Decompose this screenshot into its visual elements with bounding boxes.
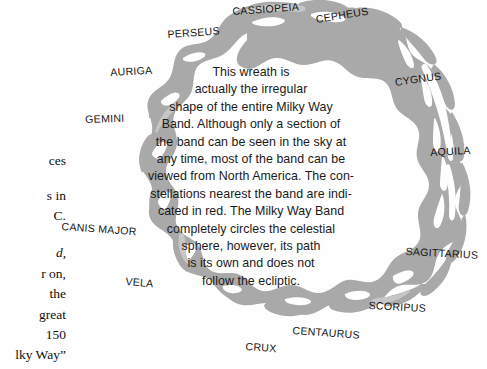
caption-line: sphere, however, its path xyxy=(140,238,362,255)
caption-line: completely circles the celestial xyxy=(140,221,362,238)
caption-line: actually the irregular xyxy=(140,81,362,98)
constellation-label-gemini: GEMINI xyxy=(85,112,125,125)
caption-line: cated in red. The Milky Way Band xyxy=(140,203,362,220)
caption-line: shape of the entire Milky Way xyxy=(140,99,362,116)
figure-page: cess inC.d,r on,thegreat150lky Way”middl… xyxy=(0,0,487,369)
constellation-label-crux: CRUX xyxy=(245,340,277,354)
caption-line: viewed from North America. The con- xyxy=(140,168,362,185)
constellation-label-vela: VELA xyxy=(125,275,154,289)
caption-line: any time, most of the band can be xyxy=(140,151,362,168)
body-text-line: middle ono xyxy=(5,364,66,369)
caption-line: This wreath is xyxy=(140,64,362,81)
caption-line: follow the ecliptic. xyxy=(140,273,362,290)
constellation-label-auriga: AURIGA xyxy=(110,64,153,78)
constellation-label-aquila: AQUILA xyxy=(430,144,471,158)
caption-line: is its own and does not xyxy=(140,255,362,272)
caption-line: stellations nearest the band are indi- xyxy=(140,186,362,203)
caption-paragraph: This wreath isactually the irregularshap… xyxy=(140,64,362,290)
caption-line: the band can be seen in the sky at xyxy=(140,134,362,151)
caption-line: Band. Although only a section of xyxy=(140,116,362,133)
